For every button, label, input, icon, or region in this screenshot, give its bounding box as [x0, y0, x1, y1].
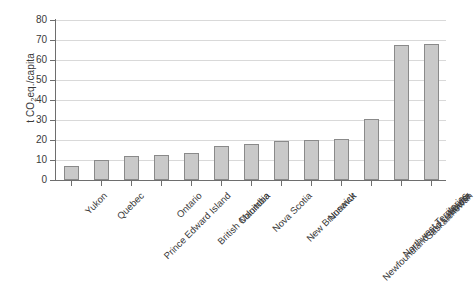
y-tick-mark — [50, 20, 55, 21]
y-tick-label: 0 — [22, 175, 47, 185]
y-tick-label: 40 — [22, 95, 47, 105]
gridline — [56, 20, 446, 21]
y-tick-mark — [50, 120, 55, 121]
x-tick-mark — [221, 181, 222, 186]
x-tick-mark — [401, 181, 402, 186]
x-tick-label: Nunavut — [325, 190, 358, 223]
gridline — [56, 40, 446, 41]
gridline — [56, 140, 446, 141]
y-tick-mark — [50, 80, 55, 81]
bar — [154, 155, 169, 180]
x-tick-mark — [371, 181, 372, 186]
x-tick-mark — [131, 181, 132, 186]
bar — [214, 146, 229, 180]
bar — [424, 44, 439, 180]
x-tick-label: Manitoba — [236, 190, 271, 225]
y-tick-mark — [50, 180, 55, 181]
gridline — [56, 60, 446, 61]
x-tick-mark — [281, 181, 282, 186]
y-tick-mark — [50, 100, 55, 101]
bar — [64, 166, 79, 180]
bar — [364, 119, 379, 180]
y-tick-label: 50 — [22, 75, 47, 85]
x-tick-mark — [251, 181, 252, 186]
y-tick-label: 10 — [22, 155, 47, 165]
x-tick-mark — [311, 181, 312, 186]
bar — [244, 144, 259, 180]
y-tick-mark — [50, 160, 55, 161]
x-tick-label: Quebec — [115, 190, 146, 221]
y-tick-label: 70 — [22, 35, 47, 45]
bar — [394, 45, 409, 180]
bar — [94, 160, 109, 180]
x-tick-mark — [71, 181, 72, 186]
y-tick-label: 30 — [22, 115, 47, 125]
y-tick-label: 80 — [22, 15, 47, 25]
x-tick-label: Yukon — [83, 190, 109, 216]
x-tick-mark — [431, 181, 432, 186]
gridline — [56, 120, 446, 121]
x-tick-mark — [161, 181, 162, 186]
y-tick-mark — [50, 40, 55, 41]
bar — [124, 156, 139, 180]
bar — [184, 153, 199, 180]
gridline — [56, 80, 446, 81]
bar — [304, 140, 319, 180]
bar — [274, 141, 289, 180]
y-tick-mark — [50, 140, 55, 141]
x-tick-mark — [101, 181, 102, 186]
y-tick-label: 20 — [22, 135, 47, 145]
x-tick-mark — [341, 181, 342, 186]
y-tick-label: 60 — [22, 55, 47, 65]
x-tick-label: Nova Scotia — [270, 190, 314, 234]
y-tick-mark — [50, 60, 55, 61]
gridline — [56, 100, 446, 101]
plot-area — [56, 20, 446, 180]
bar — [334, 139, 349, 180]
x-tick-mark — [191, 181, 192, 186]
